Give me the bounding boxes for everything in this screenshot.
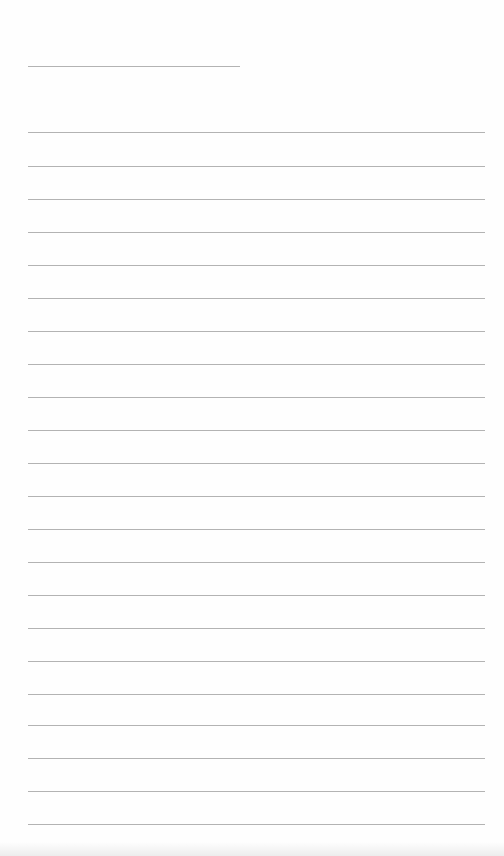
ruled-line	[28, 397, 485, 398]
ruled-line	[28, 166, 485, 167]
ruled-line	[28, 595, 485, 596]
ruled-line	[28, 199, 485, 200]
short-top-rule	[28, 66, 240, 67]
bottom-edge-shadow	[0, 842, 504, 856]
ruled-line	[28, 562, 485, 563]
ruled-line	[28, 758, 485, 759]
ruled-line	[28, 364, 485, 365]
ruled-line	[28, 331, 485, 332]
ruled-line	[28, 694, 485, 695]
ruled-line	[28, 430, 485, 431]
ruled-line	[28, 529, 485, 530]
ruled-line	[28, 132, 485, 133]
ruled-line	[28, 824, 485, 825]
ruled-line	[28, 661, 485, 662]
ruled-line	[28, 628, 485, 629]
lined-page	[0, 0, 504, 856]
ruled-line	[28, 496, 485, 497]
ruled-line	[28, 791, 485, 792]
ruled-line	[28, 463, 485, 464]
ruled-line	[28, 232, 485, 233]
ruled-line	[28, 265, 485, 266]
ruled-line	[28, 725, 485, 726]
ruled-line	[28, 298, 485, 299]
